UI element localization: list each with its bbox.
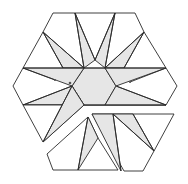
hexagon-dissection-figure xyxy=(0,0,188,184)
pin-right xyxy=(129,81,131,83)
diagram-canvas xyxy=(0,0,188,184)
pin-center-left xyxy=(69,82,72,85)
pin-left xyxy=(54,79,56,81)
pin-center-right xyxy=(115,85,117,87)
bottom-pieces xyxy=(47,114,174,171)
upper-body xyxy=(13,13,177,105)
